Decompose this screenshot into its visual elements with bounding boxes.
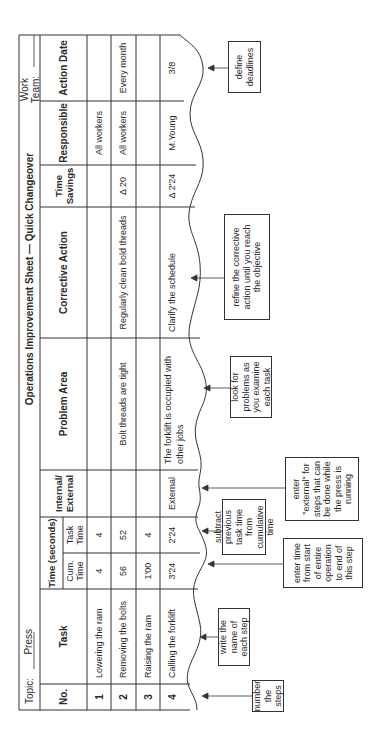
header-task: Task: [40, 589, 87, 684]
header-no: No.: [40, 684, 87, 710]
header-task-time: Task Time: [63, 517, 87, 553]
cell-action-date: [87, 35, 111, 101]
header-responsible: Responsible: [40, 101, 87, 165]
cell-problem-area: The forklift is occupied with other jobs: [162, 338, 188, 470]
callout-task-time: subtract previous task time from cumulat…: [222, 499, 266, 555]
cell-internal-external: [111, 470, 136, 517]
callout-problems: look for problems as you examine each ta…: [230, 356, 272, 418]
cell-task: Calling the forklift: [160, 589, 184, 684]
callout-number-steps: number the steps: [252, 680, 284, 712]
operations-improvement-sheet: Topic: Press Operations Improvement Shee…: [0, 0, 392, 744]
cell-cum-time: 56: [111, 553, 136, 589]
cell-internal-external: External: [160, 470, 184, 517]
cell-task: Raising the ram: [136, 589, 160, 684]
cell-time-savings: [136, 165, 160, 207]
cell-task-time: 2'24: [160, 517, 184, 553]
cell-no: 4: [160, 684, 184, 710]
header-time-group: Time (seconds): [40, 517, 63, 589]
callout-cum-time: enter time from start of entire operatio…: [283, 538, 363, 588]
cell-problem-area: [136, 338, 160, 470]
cell-problem-area: [87, 338, 111, 470]
header-time-savings: Time Savings: [40, 165, 87, 207]
header-problem-area: Problem Area: [40, 338, 87, 470]
topic-value: Press: [19, 629, 37, 669]
cell-responsible: [136, 101, 160, 165]
cell-time-savings: Δ 20: [111, 165, 136, 207]
cell-no: 1: [87, 684, 111, 710]
callout-name-steps: write the name of each step: [218, 608, 250, 666]
header-action-date: Action Date: [40, 35, 87, 101]
cell-responsible: All workers: [87, 101, 111, 165]
cell-task: Removing the bolts: [111, 589, 136, 684]
cell-action-date: Every month: [111, 35, 136, 101]
cell-time-savings: [87, 165, 111, 207]
header-corrective-action: Corrective Action: [40, 207, 87, 338]
header-internal-external: Internal/ External: [40, 470, 87, 517]
cell-responsible: M.Young: [160, 101, 184, 165]
cell-corrective-action: [87, 207, 111, 338]
callout-deadlines: define deadlines: [228, 41, 261, 93]
cell-internal-external: [87, 470, 111, 517]
header-cum-time: Cum. Time: [63, 553, 87, 589]
cell-problem-area: Bolt threads are tight: [111, 338, 136, 470]
cell-task-time: 4: [87, 517, 111, 553]
cell-no: 3: [136, 684, 160, 710]
sheet-title: Operations Improvement Sheet — Quick Cha…: [19, 114, 40, 444]
cell-time-savings: Δ 2'24: [160, 165, 184, 207]
cell-task: Lowering the ram: [87, 589, 111, 684]
cell-internal-external: [136, 470, 160, 517]
cell-action-date: 3/8: [160, 35, 184, 101]
cell-corrective-action: [136, 207, 160, 338]
cell-responsible: All workers: [111, 101, 136, 165]
cell-cum-time: 3'24: [160, 553, 184, 589]
cell-corrective-action: Clarify the schedule: [160, 207, 184, 338]
topic-label: Topic:: [19, 680, 40, 710]
cell-cum-time: 4: [87, 553, 111, 589]
cell-no: 2: [111, 684, 136, 710]
callout-corrective: refine the corrective action until you r…: [224, 214, 270, 320]
cell-cum-time: 1'00: [136, 553, 160, 589]
callout-external: enter "external" for steps that can be d…: [285, 457, 359, 521]
work-team-label: Work Team:: [19, 67, 40, 112]
cell-task-time: 4: [136, 517, 160, 553]
cell-corrective-action: Regularly clean bold threads: [111, 207, 136, 338]
cell-action-date: [136, 35, 160, 101]
cell-task-time: 52: [111, 517, 136, 553]
